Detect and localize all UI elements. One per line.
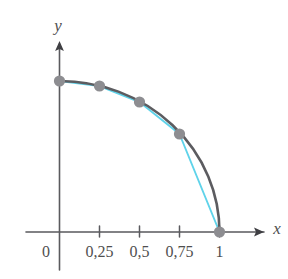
x-axis-label: x	[273, 220, 281, 237]
curve-point-0	[54, 75, 65, 86]
y-axis-label: y	[54, 17, 62, 34]
figure-canvas: x y 0 0,25 0,5 0,75 1	[0, 0, 288, 279]
curve-point-0.75	[174, 128, 185, 139]
curve-point-0.5	[134, 96, 145, 107]
curve-point-1	[214, 226, 225, 237]
x-tick-label-0.75: 0,75	[166, 244, 194, 260]
x-tick-label-0.5: 0,5	[130, 244, 150, 260]
origin-tick-label: 0	[42, 244, 50, 260]
arc-length-figure	[0, 0, 288, 279]
x-tick-label-0.25: 0,25	[86, 244, 114, 260]
curve-point-0.25	[94, 80, 105, 91]
x-tick-label-1: 1	[216, 244, 224, 260]
